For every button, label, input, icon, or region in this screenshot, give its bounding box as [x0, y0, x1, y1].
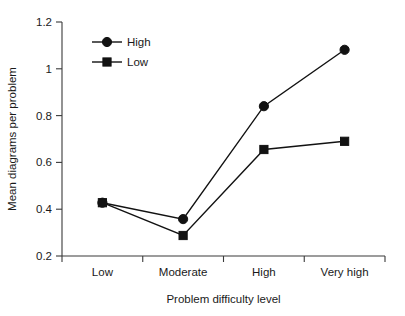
line-chart: 1.2 1 0.8 0.6 0.4 0.2 Low Moderate High … — [0, 0, 405, 316]
y-tick-label-0-4: 0.4 — [36, 203, 53, 215]
data-point-high-high — [259, 102, 268, 111]
y-axis-ticks — [56, 22, 62, 256]
legend-label-low: Low — [127, 56, 149, 68]
legend-entry-high: High — [92, 36, 151, 48]
y-tick-label-0-6: 0.6 — [36, 156, 52, 168]
data-point-low-moderate — [179, 231, 187, 239]
y-tick-label-0-2: 0.2 — [36, 250, 52, 262]
series-high-line — [102, 50, 344, 219]
x-tick-label-very-high: Very high — [321, 266, 369, 278]
legend-marker-square-icon — [103, 58, 111, 66]
legend-marker-circle-icon — [102, 37, 111, 46]
data-point-low-high — [260, 145, 268, 153]
x-tick-label-moderate: Moderate — [159, 266, 208, 278]
x-tick-label-low: Low — [92, 266, 114, 278]
data-point-high-very-high — [340, 45, 349, 54]
y-tick-label-0-8: 0.8 — [36, 110, 52, 122]
x-axis-ticks — [62, 256, 385, 262]
x-tick-label-high: High — [252, 266, 276, 278]
chart-container: 1.2 1 0.8 0.6 0.4 0.2 Low Moderate High … — [0, 0, 405, 316]
chart-legend: High Low — [92, 36, 151, 68]
legend-entry-low: Low — [92, 56, 149, 68]
series-low — [98, 137, 348, 239]
series-low-line — [102, 141, 344, 235]
y-tick-label-1: 1 — [46, 63, 52, 75]
data-point-low-very-high — [341, 137, 349, 145]
x-axis-title: Problem difficulty level — [166, 293, 280, 305]
y-axis-title: Mean diagrams per problem — [6, 67, 18, 211]
y-tick-label-1-2: 1.2 — [36, 16, 52, 28]
legend-label-high: High — [127, 36, 151, 48]
series-high — [98, 45, 349, 224]
data-point-high-moderate — [179, 215, 188, 224]
data-point-low-low — [98, 199, 106, 207]
